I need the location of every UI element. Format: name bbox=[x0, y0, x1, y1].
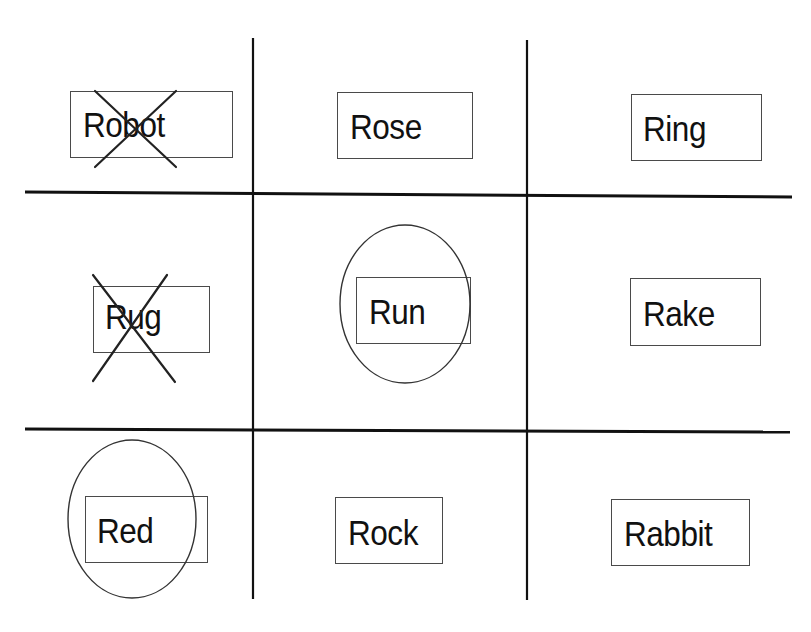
horizontal-divider-bottom bbox=[25, 429, 790, 432]
word-cell-rose[interactable] bbox=[337, 92, 473, 159]
horizontal-divider-top bbox=[25, 192, 792, 197]
word-cell-rock[interactable] bbox=[335, 497, 443, 564]
word-grid-board: Robot Rose Ring Rug Run Rake Red Rock Ra… bbox=[0, 0, 811, 632]
word-cell-run[interactable] bbox=[356, 277, 471, 344]
word-cell-rake[interactable] bbox=[630, 278, 761, 346]
word-cell-rabbit[interactable] bbox=[611, 499, 750, 566]
word-cell-ring[interactable] bbox=[631, 94, 762, 161]
word-cell-rug[interactable] bbox=[93, 286, 210, 353]
word-cell-red[interactable] bbox=[85, 496, 208, 563]
word-cell-robot[interactable] bbox=[70, 91, 233, 158]
